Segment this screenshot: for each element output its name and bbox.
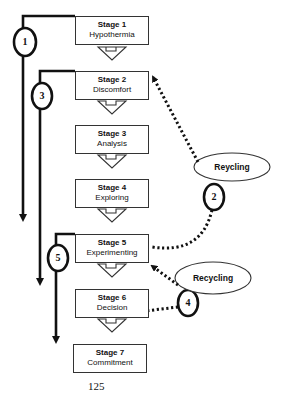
- recycling-label-1: Reycling: [200, 162, 264, 172]
- stage-3-box: Stage 3 Analysis: [75, 125, 149, 154]
- stage-name: Exploring: [76, 193, 148, 203]
- circle-2-label: 2: [204, 191, 224, 202]
- stage-number: Stage 3: [76, 129, 148, 139]
- stage-1-box: Stage 1 Hypothermia: [75, 16, 149, 45]
- stage-number: Stage 5: [76, 238, 148, 248]
- stage-5-box: Stage 5 Experimenting: [75, 234, 149, 263]
- stage-4-box: Stage 4 Exploring: [75, 179, 149, 208]
- circle-4-label: 4: [178, 297, 198, 308]
- stage-name: Experimenting: [76, 248, 148, 258]
- page-number: 125: [88, 380, 105, 392]
- recycling-label-2: Recycling: [181, 273, 245, 283]
- stage-name: Discomfort: [76, 85, 148, 95]
- stage-number: Stage 1: [76, 20, 148, 30]
- loop-lines: [23, 16, 75, 340]
- stage-number: Stage 6: [76, 293, 148, 303]
- stage-name: Decision: [76, 303, 148, 313]
- stage-number: Stage 7: [74, 348, 146, 358]
- stage-2-box: Stage 2 Discomfort: [75, 71, 149, 100]
- circle-5-label: 5: [48, 252, 68, 263]
- stage-number: Stage 4: [76, 183, 148, 193]
- stage-7-box: Stage 7 Commitment: [73, 344, 147, 373]
- circle-1-label: 1: [15, 36, 35, 47]
- stage-6-box: Stage 6 Decision: [75, 289, 149, 318]
- stage-number: Stage 2: [76, 75, 148, 85]
- stage-name: Analysis: [76, 139, 148, 149]
- circle-3-label: 3: [32, 90, 52, 101]
- stage-name: Hypothermia: [76, 30, 148, 40]
- stage-name: Commitment: [74, 358, 146, 368]
